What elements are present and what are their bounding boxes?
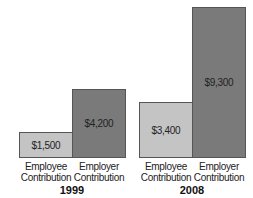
bar-1999-employer: $4,200: [72, 89, 126, 158]
bar-value: $1,500: [32, 140, 61, 151]
x-label-employee: Employee Contribution: [16, 161, 76, 183]
group-label-2008: 2008: [139, 184, 245, 196]
bar-value: $4,200: [85, 118, 114, 129]
group-label-1999: 1999: [19, 184, 125, 196]
bar-value: $3,400: [152, 125, 181, 136]
x-label-employer: Employer Contribution: [69, 161, 129, 183]
bar-2008-employee: $3,400: [139, 102, 193, 158]
bar-1999-employee: $1,500: [19, 132, 73, 158]
bar-2008-employer: $9,300: [192, 7, 246, 158]
x-label-employer: Employer Contribution: [189, 161, 249, 183]
bar-value: $9,300: [205, 77, 234, 88]
x-label-employee: Employee Contribution: [136, 161, 196, 183]
